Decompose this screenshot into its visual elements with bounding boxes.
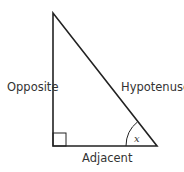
right-triangle-diagram: x Opposite Hypotenuse Adjacent [0, 0, 184, 172]
angle-label: x [134, 133, 140, 144]
opposite-label: Opposite [7, 80, 58, 94]
right-angle-marker [53, 133, 66, 146]
adjacent-label: Adjacent [82, 151, 133, 165]
hypotenuse-label: Hypotenuse [121, 80, 184, 94]
